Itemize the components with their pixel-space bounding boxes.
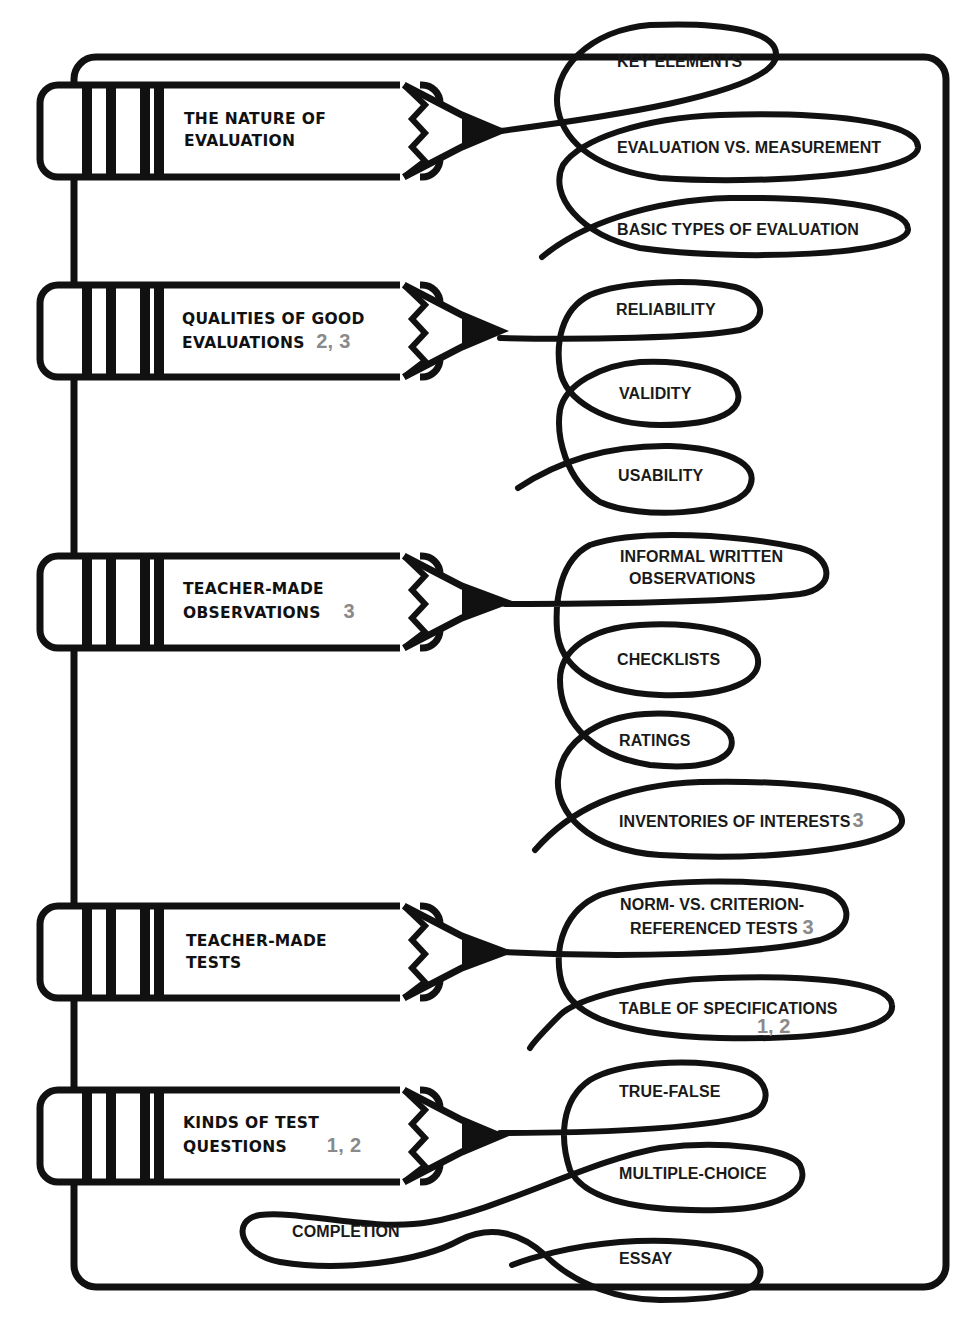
subtopic-reliability: RELIABILITY: [616, 299, 716, 321]
reference-number: 1, 2: [327, 1134, 362, 1156]
subtopic-essay: ESSAY: [619, 1248, 672, 1270]
subtopic-multiple-choice: MULTIPLE-CHOICE: [619, 1163, 767, 1185]
topic-2-label: QUALITIES OF GOOD EVALUATIONS 2, 3: [182, 308, 365, 354]
subtopic-table-of-specifications: TABLE OF SPECIFICATIONS: [619, 998, 838, 1020]
subtopic-completion: COMPLETION: [292, 1221, 400, 1243]
reference-number: 3: [852, 809, 863, 831]
reference-number: 3: [802, 916, 813, 938]
subtopic-usability: USABILITY: [618, 465, 703, 487]
reference-number: 3: [343, 600, 354, 622]
topic-3-label: TEACHER-MADE OBSERVATIONS 3: [183, 578, 355, 624]
topic-1-label: THE NATURE OF EVALUATION: [184, 108, 326, 152]
subtopic-validity: VALIDITY: [619, 383, 692, 405]
subtopic-informal-written-observations: INFORMAL WRITTEN OBSERVATIONS: [620, 546, 783, 590]
topic-5-label: KINDS OF TEST QUESTIONS 1, 2: [183, 1112, 361, 1158]
reference-number: 1, 2: [757, 1015, 790, 1038]
subtopic-basic-types: BASIC TYPES OF EVALUATION: [617, 219, 859, 241]
subtopic-checklists: CHECKLISTS: [617, 649, 720, 671]
subtopic-inventories-of-interests: INVENTORIES OF INTERESTS3: [619, 809, 864, 833]
reference-number: 2, 3: [316, 330, 351, 352]
diagram-canvas: [0, 0, 972, 1326]
subtopic-key-elements: KEY ELEMENTS: [617, 51, 742, 73]
subtopic-evaluation-vs-measurement: EVALUATION VS. MEASUREMENT: [617, 137, 881, 159]
subtopic-norm-vs-criterion: NORM- VS. CRITERION- REFERENCED TESTS 3: [620, 894, 814, 940]
topic-4-label: TEACHER-MADE TESTS: [186, 930, 327, 974]
subtopic-ratings: RATINGS: [619, 730, 691, 752]
subtopic-true-false: TRUE-FALSE: [619, 1081, 720, 1103]
